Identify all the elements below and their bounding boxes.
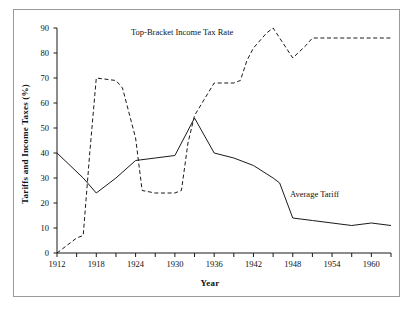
y-tick-label: 40 xyxy=(31,148,49,158)
y-tick-label: 10 xyxy=(31,223,49,233)
x-tick-label: 1942 xyxy=(237,259,269,269)
series-annotation-tax-rate: Top-Bracket Income Tax Rate xyxy=(131,27,233,37)
y-tick-label: 0 xyxy=(31,248,49,258)
series-line-top-bracket-income-tax-rate xyxy=(57,28,391,253)
x-axis-title: Year xyxy=(160,278,260,288)
x-tick-label: 1918 xyxy=(80,259,112,269)
x-tick-label: 1954 xyxy=(316,259,348,269)
y-tick-label: 90 xyxy=(31,23,49,33)
y-tick-label: 80 xyxy=(31,48,49,58)
y-tick-label: 60 xyxy=(31,98,49,108)
y-tick-label: 20 xyxy=(31,198,49,208)
chart-figure: Tariffs and Income Taxes (%) Year 010203… xyxy=(0,0,413,315)
y-tick-label: 70 xyxy=(31,73,49,83)
x-tick-label: 1912 xyxy=(41,259,73,269)
y-tick-label: 30 xyxy=(31,173,49,183)
x-tick-label: 1930 xyxy=(159,259,191,269)
x-tick-label: 1936 xyxy=(198,259,230,269)
y-tick-label: 50 xyxy=(31,123,49,133)
x-tick-label: 1948 xyxy=(277,259,309,269)
x-tick-label: 1960 xyxy=(355,259,387,269)
series-annotation-average-tariff: Average Tariff xyxy=(290,189,339,199)
x-tick-label: 1924 xyxy=(120,259,152,269)
y-axis-title: Tariffs and Income Taxes (%) xyxy=(20,59,30,229)
series-line-average-tariff xyxy=(57,118,391,226)
